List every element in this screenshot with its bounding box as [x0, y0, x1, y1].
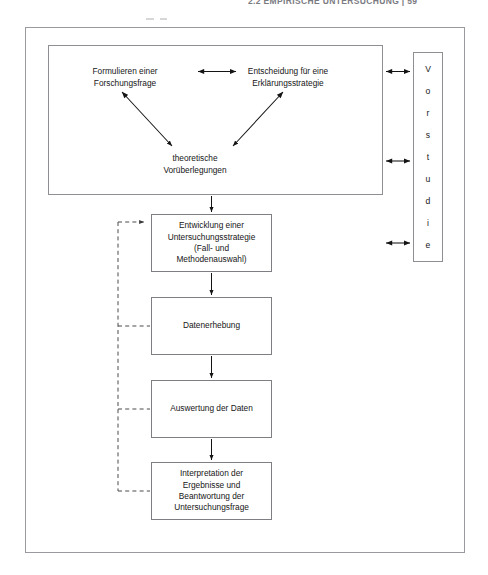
process-box-collection-label: Datenerhebung — [180, 320, 243, 331]
vorstudie-letter: e — [426, 240, 431, 250]
scan-artifact-mark — [160, 18, 167, 20]
vorstudie-letter: V — [425, 64, 431, 74]
process-box-interpret: Interpretation der Ergebnisse und Beantw… — [151, 462, 272, 520]
node-research-question: Formulieren einer Forschungsfrage — [60, 66, 190, 89]
vorstudie-letter: o — [426, 86, 431, 96]
diagram-page: 2.2 EMPIRISCHE UNTERSUCHUNG | 59 Formuli… — [0, 0, 488, 575]
process-box-strategy: Entwicklung einer Untersuchungsstrategie… — [151, 214, 272, 272]
vorstudie-letter: i — [427, 218, 429, 228]
process-box-analysis: Auswertung der Daten — [151, 380, 272, 438]
process-box-strategy-label: Entwicklung einer Untersuchungsstrategie… — [165, 220, 259, 266]
node-explanation-strategy: Entscheidung für eine Erklärungsstrategi… — [218, 66, 358, 89]
vorstudie-letter: s — [426, 130, 430, 140]
vorstudie-letter: u — [426, 174, 431, 184]
scan-artifact-mark — [146, 18, 154, 20]
node-theoretical-considerations: theoretische Vorüberlegungen — [130, 153, 260, 176]
vorstudie-letter: d — [426, 196, 431, 206]
process-box-collection: Datenerhebung — [151, 297, 272, 355]
process-box-interpret-label: Interpretation der Ergebnisse und Beantw… — [171, 468, 252, 514]
process-box-analysis-label: Auswertung der Daten — [167, 403, 256, 414]
vorstudie-letter: t — [427, 152, 429, 162]
vorstudie-box: V o r s t u d i e — [413, 52, 443, 262]
running-header: 2.2 EMPIRISCHE UNTERSUCHUNG | 59 — [248, 0, 480, 8]
running-header-text: 2.2 EMPIRISCHE UNTERSUCHUNG | 59 — [248, 0, 480, 7]
vorstudie-letter: r — [427, 108, 430, 118]
